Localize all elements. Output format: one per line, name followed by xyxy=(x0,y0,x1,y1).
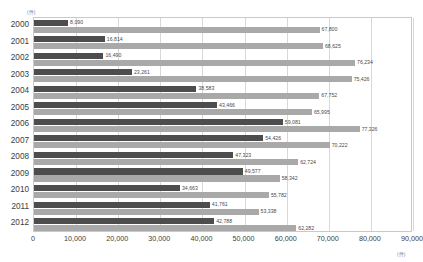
bar-light xyxy=(34,76,352,82)
bar-value-light: 67,800 xyxy=(322,26,338,32)
bar-value-light: 68,625 xyxy=(325,43,341,49)
bar-row: 16,81468,625 xyxy=(34,35,411,52)
bar-value-light: 67,752 xyxy=(321,92,337,98)
bar-dark xyxy=(34,102,217,108)
bar-light xyxy=(34,159,298,165)
bar-value-light: 53,338 xyxy=(261,208,277,214)
bar-value-dark: 59,081 xyxy=(285,119,301,125)
bar-rows: 8,09067,80016,81468,62516,49076,23423,26… xyxy=(34,18,411,231)
unit-label-top: (件) xyxy=(27,8,35,15)
bar-row: 47,32362,724 xyxy=(34,150,411,167)
bar-dark xyxy=(34,152,233,158)
y-axis-label-2007: 2007 xyxy=(11,133,29,150)
bar-value-dark: 16,490 xyxy=(105,52,121,58)
bar-light xyxy=(34,175,280,181)
bar-row: 34,66355,782 xyxy=(34,183,411,200)
y-axis-label-2010: 2010 xyxy=(11,182,29,199)
y-axis-label-2008: 2008 xyxy=(11,149,29,166)
bar-row: 41,76153,338 xyxy=(34,200,411,217)
bar-value-light: 77,326 xyxy=(362,126,378,132)
y-axis-label-2012: 2012 xyxy=(11,215,29,232)
bar-light xyxy=(34,60,355,66)
y-axis-label-2001: 2001 xyxy=(11,34,29,51)
bar-value-dark: 43,466 xyxy=(219,102,235,108)
bar-value-dark: 34,663 xyxy=(182,185,198,191)
x-axis-tick-40000: 40,000 xyxy=(190,234,212,243)
x-axis-tick-30000: 30,000 xyxy=(148,234,170,243)
bar-value-dark: 41,761 xyxy=(212,201,228,207)
bar-dark xyxy=(34,86,196,92)
bar-light xyxy=(34,142,330,148)
x-axis-tick-90000: 90,000 xyxy=(401,234,423,243)
bar-value-light: 76,234 xyxy=(357,59,373,65)
y-axis-label-2005: 2005 xyxy=(11,100,29,117)
bar-value-dark: 49,577 xyxy=(245,168,261,174)
bar-value-light: 62,724 xyxy=(300,159,316,165)
bar-row: 59,08177,326 xyxy=(34,117,411,134)
y-axis-label-2009: 2009 xyxy=(11,166,29,183)
x-axis-tick-labels: 010,00020,00030,00040,00050,00060,00070,… xyxy=(0,234,420,248)
bar-dark xyxy=(34,135,263,141)
bar-value-light: 70,222 xyxy=(332,142,348,148)
bar-row: 43,46665,995 xyxy=(34,101,411,118)
unit-label-bottom: (件) xyxy=(397,250,405,257)
bar-light xyxy=(34,126,360,132)
bar-dark xyxy=(34,218,214,224)
bar-dark xyxy=(34,69,132,75)
bar-row: 23,26175,426 xyxy=(34,68,411,85)
y-axis-label-2004: 2004 xyxy=(11,83,29,100)
bar-value-dark: 47,323 xyxy=(235,152,251,158)
bar-row: 42,78862,282 xyxy=(34,216,411,233)
y-axis-label-2006: 2006 xyxy=(11,116,29,133)
y-axis-label-2003: 2003 xyxy=(11,67,29,84)
bar-dark xyxy=(34,168,243,174)
bar-dark xyxy=(34,202,210,208)
bar-dark xyxy=(34,36,105,42)
bar-light xyxy=(34,225,296,231)
bar-dark xyxy=(34,119,283,125)
bar-value-dark: 54,426 xyxy=(265,135,281,141)
bar-row: 8,09067,800 xyxy=(34,18,411,35)
bar-dark xyxy=(34,20,68,26)
bar-value-light: 55,782 xyxy=(271,192,287,198)
bar-row: 38,58367,752 xyxy=(34,84,411,101)
bar-light xyxy=(34,27,320,33)
bar-value-light: 58,342 xyxy=(282,175,298,181)
x-axis-tick-50000: 50,000 xyxy=(233,234,255,243)
bar-light xyxy=(34,209,259,215)
x-axis-tick-80000: 80,000 xyxy=(359,234,381,243)
x-axis-tick-0: 0 xyxy=(31,234,35,243)
bar-light xyxy=(34,192,269,198)
bar-value-light: 62,282 xyxy=(298,225,314,231)
bar-row: 54,42670,222 xyxy=(34,134,411,151)
y-axis-label-2000: 2000 xyxy=(11,17,29,34)
bar-value-dark: 16,814 xyxy=(107,36,123,42)
bar-value-light: 75,426 xyxy=(354,76,370,82)
x-axis-tick-20000: 20,000 xyxy=(106,234,128,243)
gridline xyxy=(413,18,414,231)
x-axis-tick-60000: 60,000 xyxy=(275,234,297,243)
bar-dark xyxy=(34,53,103,59)
bar-value-dark: 38,583 xyxy=(198,85,214,91)
x-axis-tick-10000: 10,000 xyxy=(64,234,86,243)
bar-row: 16,49076,234 xyxy=(34,51,411,68)
bar-light xyxy=(34,109,312,115)
y-axis-label-2011: 2011 xyxy=(11,199,29,216)
bar-row: 49,57758,342 xyxy=(34,167,411,184)
bar-value-dark: 23,261 xyxy=(134,69,150,75)
bar-value-dark: 8,090 xyxy=(70,19,83,25)
plot-area: 8,09067,80016,81468,62516,49076,23423,26… xyxy=(33,17,412,232)
y-axis-label-2002: 2002 xyxy=(11,50,29,67)
bar-value-light: 65,995 xyxy=(314,109,330,115)
bar-light xyxy=(34,43,323,49)
bar-dark xyxy=(34,185,180,191)
bar-light xyxy=(34,93,319,99)
y-axis-category-labels: 2000200120022003200420052006200720082009… xyxy=(0,17,31,232)
bar-value-dark: 42,788 xyxy=(216,218,232,224)
x-axis-tick-70000: 70,000 xyxy=(317,234,339,243)
